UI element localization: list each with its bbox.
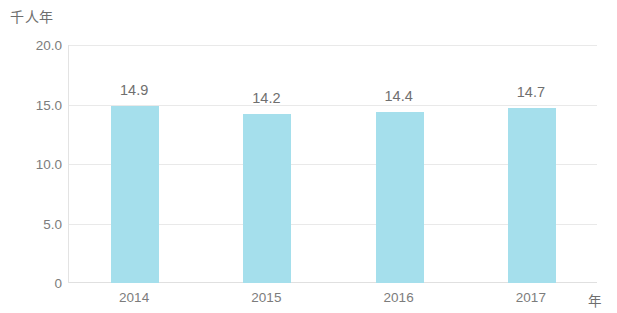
bar-2016	[376, 112, 424, 283]
x-tick-label-2016: 2016	[384, 290, 414, 305]
bar-value-label-2014: 14.9	[120, 82, 148, 98]
x-tick-label-2017: 2017	[516, 290, 546, 305]
bar-value-label-2015: 14.2	[252, 90, 280, 106]
bar-value-label-2016: 14.4	[385, 88, 413, 104]
x-tick-label-2015: 2015	[251, 290, 281, 305]
y-axis-title: 千人年	[10, 6, 54, 26]
y-tick-label-5: 5.0	[4, 216, 62, 231]
bars-layer	[69, 45, 597, 283]
bar-value-label-2017: 14.7	[517, 84, 545, 100]
y-tick-label-20: 20.0	[4, 38, 62, 53]
x-tick-label-2014: 2014	[119, 290, 149, 305]
x-axis-title: 年	[588, 290, 601, 310]
y-tick-label-10: 10.0	[4, 157, 62, 172]
plot-area	[68, 45, 597, 283]
y-tick-label-15: 15.0	[4, 97, 62, 112]
bar-2017	[508, 108, 556, 283]
bar-chart: 千人年 20.0 15.0 10.0 5.0 0 14.9201414.2201…	[0, 0, 617, 313]
bar-2014	[111, 106, 159, 283]
bar-2015	[243, 114, 291, 283]
y-axis-tick-labels: 20.0 15.0 10.0 5.0 0	[0, 45, 62, 283]
y-tick-label-0: 0	[4, 276, 62, 291]
